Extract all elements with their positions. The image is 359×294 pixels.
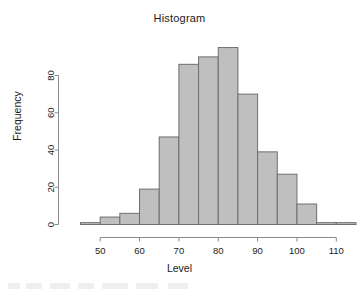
histogram-bar: [238, 94, 258, 224]
x-axis-tick-label: 60: [134, 245, 145, 256]
y-axis-tick-label: 80: [45, 70, 56, 81]
x-axis-tick-label: 70: [174, 245, 185, 256]
histogram-bar: [258, 152, 278, 225]
x-axis-tick-label: 110: [329, 245, 344, 256]
x-axis: 5060708090100110: [95, 238, 344, 257]
histogram-bar: [100, 217, 120, 224]
plot-canvas: 020406080 5060708090100110: [0, 0, 359, 294]
y-axis-tick-label: 0: [45, 222, 56, 227]
x-axis-tick-label: 100: [289, 245, 305, 256]
histogram-bar: [199, 57, 219, 225]
y-axis-label: Frequency: [11, 46, 23, 186]
y-axis: 020406080: [45, 70, 59, 227]
x-axis-tick-label: 50: [95, 245, 106, 256]
histogram-plot: Histogram 020406080 5060708090100110 Fre…: [0, 0, 359, 294]
histogram-bar: [81, 223, 101, 225]
histogram-bar: [179, 64, 199, 224]
histogram-bar: [120, 213, 140, 224]
y-axis-tick-label: 60: [45, 107, 56, 118]
histogram-bar: [297, 204, 317, 224]
bars-group: [81, 48, 357, 225]
y-axis-tick-label: 20: [45, 182, 56, 193]
x-axis-tick-label: 80: [213, 245, 224, 256]
histogram-bar: [277, 174, 297, 224]
histogram-bar: [140, 189, 160, 224]
page-footer-artifact: [8, 283, 188, 289]
x-axis-tick-label: 90: [252, 245, 263, 256]
histogram-bar: [218, 48, 238, 225]
y-axis-tick-label: 40: [45, 145, 56, 156]
histogram-bar: [336, 223, 356, 225]
histogram-bar: [159, 137, 179, 225]
x-axis-label: Level: [0, 262, 359, 274]
histogram-bar: [317, 223, 337, 225]
